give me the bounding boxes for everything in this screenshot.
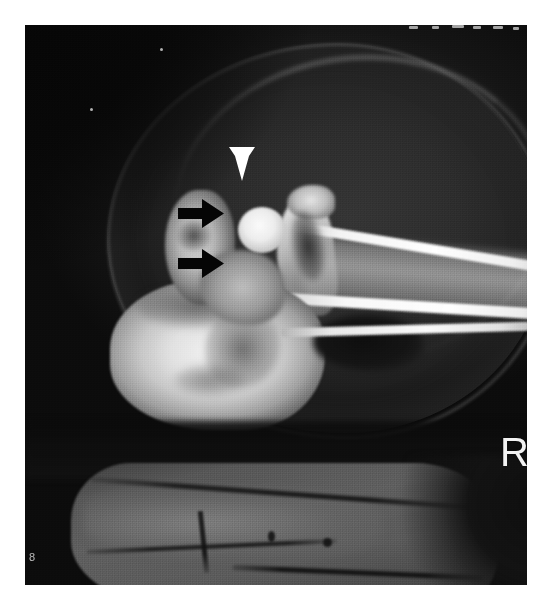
screenshot-root: R 8	[0, 0, 541, 611]
film-edge-tick	[409, 26, 418, 29]
bone-knob	[287, 185, 335, 219]
white-arrowhead-icon	[229, 147, 255, 181]
film-corner-id: 8	[29, 552, 35, 563]
film-edge-tick	[452, 25, 464, 28]
laterality-marker-R: R	[500, 432, 527, 472]
bone-mass-texture-lower	[175, 365, 245, 395]
film-fleck	[90, 108, 93, 111]
joint-space-notch	[313, 315, 423, 371]
film-edge-tick	[513, 27, 519, 30]
film-edge-tick	[432, 26, 439, 29]
lower-slab-speck-1	[268, 531, 275, 542]
ossicle-fragment	[238, 207, 286, 253]
lower-slab-speck-2	[323, 538, 332, 547]
lower-right-dark-region	[395, 455, 527, 585]
radiograph-image: R 8	[25, 25, 527, 585]
film-fleck	[160, 48, 163, 51]
black-arrow-icon-lower	[178, 249, 224, 278]
film-edge-tick	[493, 26, 503, 29]
film-edge-tick	[473, 26, 481, 29]
black-arrow-icon-upper	[178, 199, 224, 228]
